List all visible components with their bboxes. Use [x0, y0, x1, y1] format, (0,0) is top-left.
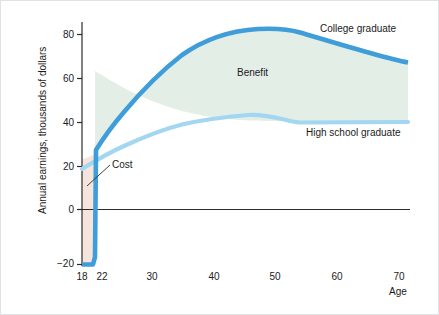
y-axis-title: Annual earnings, thousands of dollars	[38, 47, 48, 214]
x-tick-label-60: 60	[327, 272, 347, 282]
y-axis-ticks	[77, 35, 82, 265]
y-tick-label-0: 0	[54, 205, 74, 215]
y-tick-label-20: 20	[54, 162, 74, 172]
series-label-high-school-graduate: High school graduate	[306, 128, 401, 138]
x-tick-label-18: 18	[72, 272, 92, 282]
x-tick-label-50: 50	[265, 272, 285, 282]
cost-area-label: Cost	[112, 160, 133, 170]
x-tick-label-40: 40	[204, 272, 224, 282]
x-tick-label-22: 22	[92, 272, 112, 282]
x-tick-label-30: 30	[142, 272, 162, 282]
benefit-area-label: Benefit	[237, 68, 268, 78]
chart-figure: Annual earnings, thousands of dollars 80…	[0, 0, 439, 315]
y-tick-label-minus-20: −20	[48, 259, 74, 269]
series-label-college-graduate: College graduate	[320, 24, 396, 34]
x-axis-title: Age	[389, 287, 407, 297]
y-tick-label-80: 80	[54, 30, 74, 40]
y-tick-label-60: 60	[54, 74, 74, 84]
y-tick-label-40: 40	[54, 118, 74, 128]
x-tick-label-70: 70	[389, 272, 409, 282]
